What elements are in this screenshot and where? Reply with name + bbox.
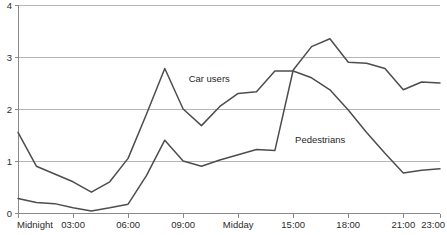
x-tick-label-1: 03:00 — [61, 219, 85, 230]
series-line-car-users — [18, 68, 440, 192]
line-chart: 01234 Midnight03:0006:0009:00Midday15:00… — [0, 0, 447, 235]
y-tick-label-0: 0 — [7, 208, 12, 219]
x-tick-label-3: 09:00 — [171, 219, 195, 230]
series-label-pedestrians: Pedestrians — [295, 134, 345, 145]
data-series — [18, 39, 440, 211]
x-tick-label-5: 15:00 — [281, 219, 305, 230]
x-tick-label-0: Midnight — [17, 219, 53, 230]
y-axis: 01234 — [7, 0, 19, 219]
x-tick-label-7: 21:00 — [391, 219, 415, 230]
series-line-pedestrians — [18, 39, 440, 211]
y-tick-label-4: 4 — [7, 0, 12, 11]
y-tick-label-3: 3 — [7, 52, 12, 63]
y-tick-label-1: 1 — [7, 156, 12, 167]
gridlines — [18, 6, 440, 214]
y-tick-label-2: 2 — [7, 104, 12, 115]
series-label-car-users: Car users — [189, 73, 230, 84]
x-tick-label-8: 23:00 — [421, 219, 445, 230]
x-tick-label-2: 06:00 — [116, 219, 140, 230]
x-axis: Midnight03:0006:0009:00Midday15:0018:002… — [17, 214, 445, 231]
x-tick-label-6: 18:00 — [336, 219, 360, 230]
chart-plot-area: 01234 Midnight03:0006:0009:00Midday15:00… — [0, 0, 447, 235]
x-tick-label-4: Midday — [223, 219, 254, 230]
